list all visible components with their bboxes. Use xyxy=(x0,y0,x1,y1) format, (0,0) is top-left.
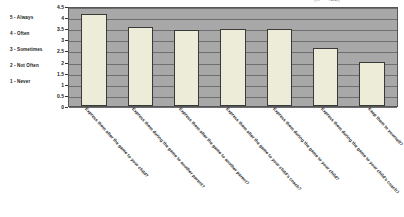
bar-slot xyxy=(210,8,256,106)
bar-slot xyxy=(256,8,302,106)
y-axis-tick-label: 4 xyxy=(61,16,64,21)
y-axis-tick-label: 2.5 xyxy=(57,49,64,54)
y-axis-tick-label: 0 xyxy=(61,105,64,110)
legend-item-sometimes: 3 - Sometimes xyxy=(10,48,42,53)
y-axis-tick-label: 2 xyxy=(61,60,64,65)
bar-slot xyxy=(71,8,117,106)
y-axis: 00.511.522.533.544.5 xyxy=(44,7,66,107)
x-axis-label: Express them during the game to your chi… xyxy=(319,107,399,195)
clipped-chart-title: (n = 422) xyxy=(262,0,392,3)
bar xyxy=(174,30,199,106)
bar-slot xyxy=(302,8,348,106)
plot-wrapper xyxy=(68,7,398,107)
bar-series xyxy=(69,8,397,106)
legend-item-not-often: 2 - Not Often xyxy=(10,64,39,69)
bar-slot xyxy=(349,8,395,106)
bar-slot xyxy=(117,8,163,106)
bar xyxy=(220,29,245,106)
bar xyxy=(81,14,106,106)
legend-item-never: 1 - Never xyxy=(10,80,30,85)
bar xyxy=(267,29,292,106)
bar-slot xyxy=(164,8,210,106)
y-axis-tick-label: 3 xyxy=(61,38,64,43)
y-axis-tick-label: 1.5 xyxy=(57,71,64,76)
x-axis-labels: Express them after the game to your chil… xyxy=(68,107,398,217)
bar xyxy=(128,27,153,106)
plot-area xyxy=(68,7,398,107)
bar xyxy=(313,48,338,106)
legend-item-often: 4 - Often xyxy=(10,32,30,37)
y-axis-tick-label: 3.5 xyxy=(57,27,64,32)
y-axis-tick-label: 4.5 xyxy=(57,5,64,10)
y-axis-tick-label: 0.5 xyxy=(57,93,64,98)
bar xyxy=(359,62,384,106)
legend-item-always: 5 - Always xyxy=(10,16,33,21)
y-axis-tick-label: 1 xyxy=(61,82,64,87)
x-axis-label: Express them after the game to your chil… xyxy=(225,107,302,192)
x-axis-label: Keep them to yourself? xyxy=(366,107,403,147)
